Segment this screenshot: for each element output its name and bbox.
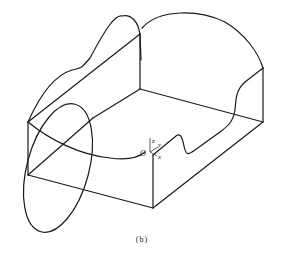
x-axis-label: x (157, 153, 162, 161)
technical-diagram: O z y x (b) (0, 0, 284, 253)
left-face-diagonal (28, 118, 93, 175)
back-arc-profile (142, 13, 263, 68)
section-ellipse (11, 96, 105, 240)
right-top-profile (153, 68, 263, 155)
coordinate-frame: O z y x (140, 137, 162, 161)
right-bottom-edge (153, 122, 263, 208)
isometric-drawing: O z y x (0, 0, 284, 253)
front-bottom-edge (28, 175, 153, 208)
inner-floor-left-edge (93, 89, 140, 118)
left-wavy-profile (28, 16, 141, 122)
top-left-rim (28, 34, 140, 122)
front-top-curve (28, 122, 145, 159)
origin-label: O (140, 149, 146, 158)
z-axis-label: z (151, 137, 155, 145)
inner-floor-back-edge (140, 89, 263, 122)
figure-caption: (b) (0, 235, 284, 244)
